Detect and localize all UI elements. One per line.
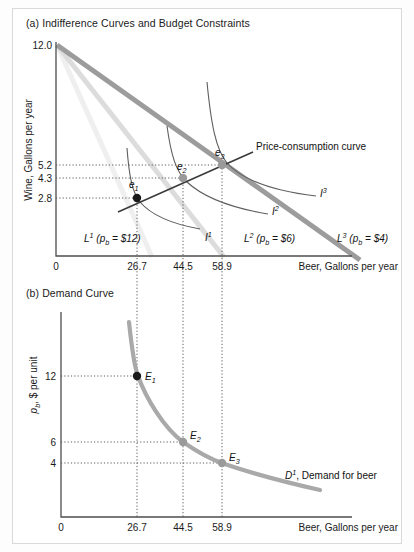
point-label-E3: E3 <box>229 452 240 466</box>
point-label-E2: E2 <box>190 430 201 444</box>
point-E2 <box>179 438 187 446</box>
panel-b-xtick-2: 58.9 <box>212 522 232 533</box>
panel-b-ytick-2: 4 <box>50 458 56 469</box>
panel-b-xtick-0: 26.7 <box>127 522 147 533</box>
economics-figure: (a) Indifference Curves and Budget Const… <box>0 0 414 552</box>
panel-b-origin: 0 <box>58 522 64 533</box>
point-label-E1: E1 <box>145 371 156 385</box>
panel-b-y-axis-label: pb, $ per unit <box>28 356 42 414</box>
panel-b-plot: 12 6 4 0 26.7 44.5 58.9 pb, $ per unit B… <box>0 0 414 552</box>
point-E3 <box>218 459 226 467</box>
panel-b-ytick-0: 12 <box>45 371 57 382</box>
point-E1 <box>133 372 141 380</box>
label-demand-d1: D1, Demand for beer <box>285 468 378 481</box>
panel-b-x-axis-label: Beer, Gallons per year <box>299 522 399 533</box>
panel-b-ytick-1: 6 <box>50 437 56 448</box>
panel-b-xtick-1: 44.5 <box>173 522 193 533</box>
